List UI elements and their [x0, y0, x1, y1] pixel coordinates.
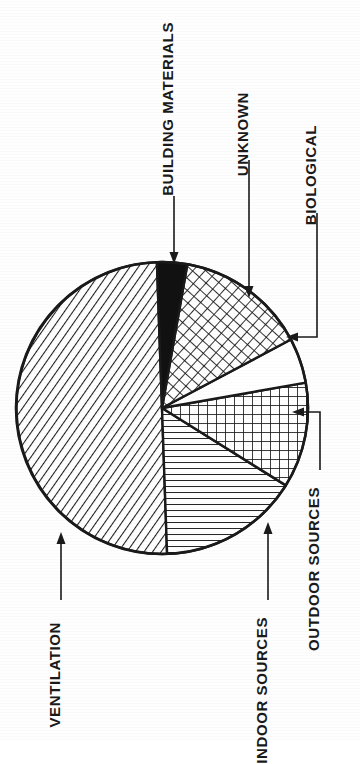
leader-building-materials	[170, 196, 179, 264]
leader-ventilation	[57, 532, 66, 600]
slice-label-unknown: UNKNOWN	[235, 92, 250, 176]
slice-label-indoor-sources: INDOOR SOURCES	[254, 617, 269, 764]
pie-slices-group	[17, 262, 308, 554]
pie-slice-ventilation	[17, 262, 168, 554]
leader-indoor-sources	[264, 522, 273, 600]
slice-label-biological: BIOLOGICAL	[303, 125, 318, 225]
slice-label-building-materials: BUILDING MATERIALS	[160, 22, 175, 196]
slice-label-ventilation: VENTILATION	[47, 622, 62, 727]
leader-unknown	[245, 160, 254, 298]
leader-biological	[286, 213, 317, 342]
slice-label-outdoor-sources: OUTDOOR SOURCES	[306, 487, 321, 651]
